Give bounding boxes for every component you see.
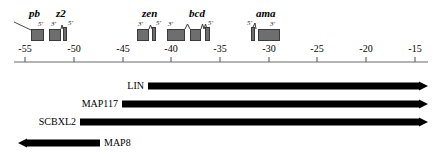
axis-tick-label-0: -55	[10, 44, 40, 54]
clone-bar-MAP117	[122, 100, 428, 109]
axis-tick-label-1: -50	[59, 44, 89, 54]
gene-leader-line-pb	[14, 22, 31, 30]
exon-box-ama-0	[251, 27, 255, 41]
axis-tick-label-4: -35	[205, 44, 235, 54]
intron-caret-bcd-1	[201, 24, 204, 29]
exon-box-zen-1	[152, 27, 156, 41]
clone-bar-SCBXL2	[80, 118, 428, 127]
gene-end-label-bcd-1: 5'	[208, 20, 213, 27]
clone-label-MAP117: MAP117	[82, 99, 118, 109]
axis-tick-label-5: -30	[254, 44, 284, 54]
clone-label-MAP8: MAP8	[104, 138, 131, 148]
exon-box-ama-1	[258, 29, 280, 41]
gene-end-label-z2-1: 5'	[68, 20, 73, 27]
gene-end-label-zen-0: 3'	[138, 21, 143, 28]
clone-bar-LIN	[148, 82, 428, 91]
axis-tick-label-7: -20	[351, 44, 381, 54]
gene-end-label-bcd-0: 3'	[168, 21, 173, 28]
gene-end-label-z2-0: 3'	[51, 21, 56, 28]
figure-vector-layer	[0, 0, 439, 156]
axis-tick-label-8: -15	[400, 44, 430, 54]
exon-box-bcd-1	[190, 29, 201, 41]
clone-bar-MAP8	[18, 139, 100, 148]
gene-end-label-ama-1: 3'	[270, 21, 275, 28]
gene-end-label-zen-1: 5'	[156, 20, 161, 27]
exon-box-z2-0	[49, 29, 61, 41]
gene-name-ama: ama	[256, 8, 276, 19]
exon-box-bcd-2	[205, 27, 210, 41]
clone-label-SCBXL2: SCBXL2	[39, 117, 76, 127]
gene-name-pb: pb	[29, 8, 40, 19]
gene-name-zen: zen	[142, 8, 157, 19]
gene-end-label-pb-0: 5'	[38, 21, 43, 28]
gene-name-z2: z2	[56, 8, 66, 19]
axis-tick-label-6: -25	[302, 44, 332, 54]
axis-tick-label-2: -45	[108, 44, 138, 54]
gene-end-label-ama-0: 5'	[247, 20, 252, 27]
genomic-map-figure: pb5'z23'5'zen3'5'bcd3'5'ama5'3'-55-50-45…	[0, 0, 439, 156]
clone-label-LIN: LIN	[127, 81, 144, 91]
exon-box-bcd-0	[167, 29, 185, 41]
gene-name-bcd: bcd	[189, 8, 205, 19]
exon-box-z2-1	[63, 27, 67, 41]
exon-box-pb-0	[31, 29, 44, 41]
axis-tick-label-3: -40	[156, 44, 186, 54]
exon-box-zen-0	[137, 29, 149, 41]
